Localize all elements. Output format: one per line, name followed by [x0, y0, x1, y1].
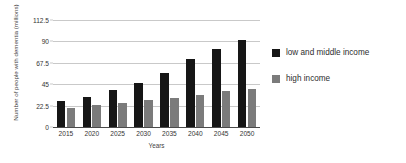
x-axis-tick-label: 2025: [110, 130, 125, 137]
bar-group: [208, 20, 234, 127]
x-axis-tick-label: 2050: [240, 130, 255, 137]
x-axis-title: Years: [53, 142, 260, 149]
y-axis-tick-label: 90: [42, 38, 49, 45]
legend-swatch-icon: [272, 49, 280, 57]
bar-high-income: [222, 91, 231, 127]
bar-group: [79, 20, 105, 127]
bar-group: [131, 20, 157, 127]
bar-group: [157, 20, 183, 127]
bar-high-income: [67, 108, 76, 127]
legend-item: high income: [272, 74, 402, 83]
bar-low-and-middle-income: [238, 40, 247, 128]
chart-legend: low and middle incomehigh income: [272, 48, 402, 100]
legend-item: low and middle income: [272, 48, 402, 57]
bar-group: [105, 20, 131, 127]
legend-label: high income: [286, 74, 330, 83]
bar-low-and-middle-income: [109, 90, 118, 127]
y-axis-tick-label: 45: [42, 81, 49, 88]
x-axis-tick-label: 2035: [162, 130, 177, 137]
bar-low-and-middle-income: [160, 73, 169, 127]
plot-area: 022.54567.590112.5: [53, 20, 260, 127]
bar-low-and-middle-income: [186, 59, 195, 127]
y-axis-title: Number of people with dementia (millions…: [12, 0, 19, 127]
y-axis-tick-label: 112.5: [33, 17, 49, 24]
x-axis-tick-label: 2045: [214, 130, 229, 137]
y-axis-tick-label: 22.5: [36, 102, 49, 109]
bar-high-income: [92, 105, 101, 127]
bar-group: [182, 20, 208, 127]
bar-low-and-middle-income: [83, 97, 92, 127]
bar-low-and-middle-income: [134, 83, 143, 127]
y-axis-tick-label: 0: [45, 124, 49, 131]
bar-low-and-middle-income: [57, 101, 66, 127]
bar-high-income: [118, 103, 127, 127]
bar-group: [234, 20, 260, 127]
bar-high-income: [144, 100, 153, 127]
bar-high-income: [196, 95, 205, 127]
x-axis-tick-label: 2015: [59, 130, 74, 137]
legend-swatch-icon: [272, 75, 280, 83]
bar-high-income: [170, 98, 179, 127]
bar-series-container: [53, 20, 260, 127]
x-axis-tick-label: 2030: [136, 130, 151, 137]
bar-high-income: [248, 89, 257, 127]
bar-low-and-middle-income: [212, 49, 221, 127]
chart-figure: Number of people with dementia (millions…: [0, 0, 406, 163]
x-axis-line: [53, 127, 260, 128]
x-axis-tick-label: 2040: [188, 130, 203, 137]
x-axis-tick-label: 2020: [84, 130, 99, 137]
bar-group: [53, 20, 79, 127]
legend-label: low and middle income: [286, 48, 369, 57]
y-axis-tick-label: 67.5: [36, 59, 49, 66]
